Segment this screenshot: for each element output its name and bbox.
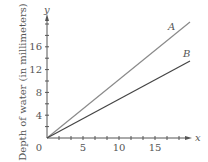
x-axis-arrow-icon	[185, 136, 192, 140]
y-tick-label: 16	[29, 41, 42, 52]
x-axis-letter: x	[195, 132, 201, 143]
y-axis-title: Depth of water (in millimeters)	[17, 3, 28, 161]
x-tick-label: 10	[113, 142, 126, 153]
y-axis-letter: y	[43, 4, 50, 15]
origin-label: 0	[36, 142, 42, 153]
chart: Depth of water (in millimeters) 4 8 12 1…	[0, 0, 208, 162]
y-tick-label: 8	[36, 87, 42, 98]
series-line-a	[47, 22, 190, 138]
series-line-b	[47, 61, 190, 138]
series-label-a: A	[167, 21, 175, 32]
x-tick-label: 5	[80, 142, 86, 153]
y-tick-label: 4	[36, 110, 42, 121]
y-tick-label: 12	[29, 64, 42, 75]
series-label-b: B	[182, 48, 190, 59]
y-axis-arrow-icon	[45, 14, 49, 21]
x-tick-label: 15	[149, 142, 162, 153]
